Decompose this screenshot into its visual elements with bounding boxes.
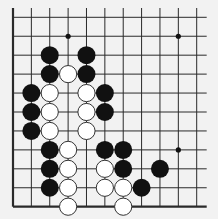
white-stone[interactable] [96, 160, 113, 177]
black-stone[interactable] [96, 141, 114, 159]
white-stone[interactable] [41, 84, 58, 101]
white-stone[interactable] [60, 141, 77, 158]
black-stone[interactable] [22, 84, 40, 102]
white-stone[interactable] [115, 198, 132, 215]
black-stone[interactable] [41, 65, 59, 83]
black-stone[interactable] [41, 141, 59, 159]
black-stone[interactable] [77, 46, 95, 64]
black-stone[interactable] [22, 103, 40, 121]
go-board[interactable] [0, 0, 218, 219]
go-board-grid[interactable] [0, 0, 218, 219]
white-stone[interactable] [115, 179, 132, 196]
white-stone[interactable] [60, 198, 77, 215]
black-stone[interactable] [96, 84, 114, 102]
black-stone[interactable] [22, 122, 40, 140]
black-stone[interactable] [151, 160, 169, 178]
white-stone[interactable] [78, 103, 95, 120]
white-stone[interactable] [60, 160, 77, 177]
white-stone[interactable] [78, 84, 95, 101]
white-stone[interactable] [60, 179, 77, 196]
white-stone[interactable] [41, 103, 58, 120]
black-stone[interactable] [96, 103, 114, 121]
white-stone[interactable] [60, 66, 77, 83]
black-stone[interactable] [41, 179, 59, 197]
black-stone[interactable] [41, 46, 59, 64]
black-stone[interactable] [41, 160, 59, 178]
white-stone[interactable] [78, 122, 95, 139]
black-stone[interactable] [114, 160, 132, 178]
black-stone[interactable] [77, 65, 95, 83]
black-stone[interactable] [133, 179, 151, 197]
black-stone[interactable] [114, 141, 132, 159]
star-point-icon [66, 34, 71, 39]
star-point-icon [176, 147, 181, 152]
star-point-icon [176, 34, 181, 39]
white-stone[interactable] [41, 122, 58, 139]
white-stone[interactable] [96, 179, 113, 196]
